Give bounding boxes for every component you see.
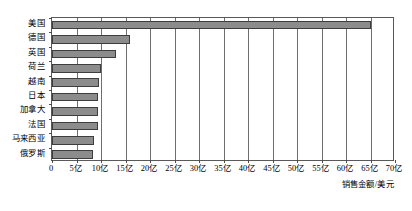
x-tick-label: 20亿 (141, 163, 157, 175)
category-label: 马来西亚 (12, 132, 45, 146)
category-label: 日本 (28, 89, 45, 103)
bar-row (52, 148, 93, 162)
bar (52, 122, 98, 131)
bar (52, 64, 101, 73)
bar-row (52, 119, 98, 133)
bar (52, 107, 98, 116)
y-tick-mark (49, 47, 52, 48)
category-label: 俄罗斯 (20, 147, 45, 161)
gridline (346, 18, 347, 160)
x-tick-label: 50亿 (288, 163, 304, 175)
gridline (224, 18, 225, 160)
category-label: 越南 (28, 75, 45, 89)
bar (52, 150, 93, 159)
bar-row (52, 61, 101, 75)
x-tick-label: 70亿 (386, 163, 402, 175)
bar (52, 78, 99, 87)
category-axis: 美国德国英国荷兰越南日本加拿大法国马来西亚俄罗斯 (0, 17, 48, 161)
y-tick-mark (49, 18, 52, 19)
x-tick-label: 0 (49, 163, 53, 175)
category-label: 荷兰 (28, 60, 45, 74)
gridline (175, 18, 176, 160)
bar (52, 21, 371, 30)
y-tick-mark (49, 148, 52, 149)
x-tick-label: 10亿 (92, 163, 108, 175)
gridline (273, 18, 274, 160)
y-tick-mark (49, 32, 52, 33)
x-tick-label: 25亿 (165, 163, 181, 175)
bar-row (52, 32, 130, 46)
x-tick-label: 55亿 (312, 163, 328, 175)
category-label: 法国 (28, 118, 45, 132)
value-axis: 05亿10亿15亿20亿25亿30亿35亿40亿45亿50亿55亿60亿65亿7… (0, 163, 412, 177)
y-tick-mark (49, 119, 52, 120)
bar-row (52, 47, 116, 61)
horizontal-bar-chart: 美国德国英国荷兰越南日本加拿大法国马来西亚俄罗斯 05亿10亿15亿20亿25亿… (0, 0, 412, 211)
bar-row (52, 90, 98, 104)
bar (52, 93, 98, 102)
bar-row (52, 76, 99, 90)
y-tick-mark (49, 104, 52, 105)
bar (52, 136, 94, 145)
bar (52, 35, 130, 44)
bar-row (52, 133, 94, 147)
category-label: 德国 (28, 31, 45, 45)
category-label: 英国 (28, 46, 45, 60)
plot-area (51, 17, 394, 161)
x-tick-label: 60亿 (337, 163, 353, 175)
gridline (150, 18, 151, 160)
x-tick-label: 35亿 (214, 163, 230, 175)
gridline (199, 18, 200, 160)
category-label: 美国 (28, 17, 45, 31)
bar-row (52, 18, 371, 32)
y-tick-mark (49, 76, 52, 77)
gridline (371, 18, 372, 160)
x-tick-label: 65亿 (361, 163, 377, 175)
x-tick-label: 15亿 (116, 163, 132, 175)
gridline (248, 18, 249, 160)
x-tick-label: 45亿 (263, 163, 279, 175)
bar-row (52, 104, 98, 118)
gridline (297, 18, 298, 160)
y-tick-mark (49, 90, 52, 91)
x-axis-title: 销售金额/美元 (342, 177, 394, 189)
gridline (322, 18, 323, 160)
x-tick-label: 40亿 (239, 163, 255, 175)
y-tick-mark (49, 61, 52, 62)
x-tick-label: 5亿 (69, 163, 81, 175)
bar (52, 50, 116, 59)
y-tick-mark (49, 133, 52, 134)
x-tick-label: 30亿 (190, 163, 206, 175)
category-label: 加拿大 (20, 103, 45, 117)
